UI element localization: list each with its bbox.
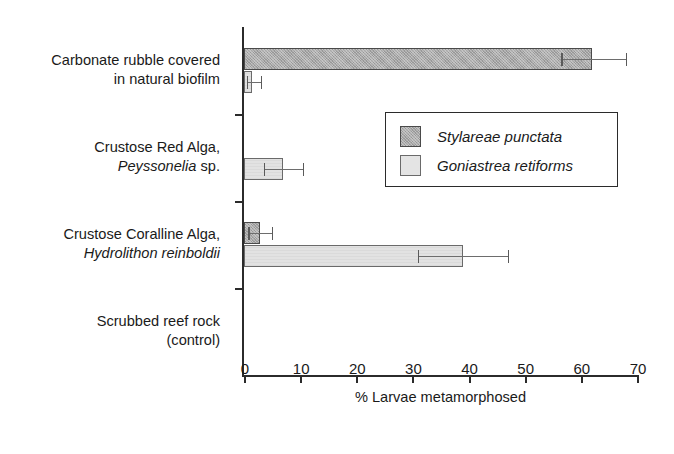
- error-bar-line-s0-c2: [248, 233, 272, 234]
- error-bar-cap-high-s0-c0: [626, 53, 627, 66]
- x-tick-label-10: 10: [281, 360, 321, 377]
- error-bar-line-s1-c0: [247, 82, 261, 83]
- y-tick-1: [235, 114, 243, 116]
- x-tick-label-70: 70: [618, 360, 658, 377]
- error-bar-cap-high-s1-c0: [261, 76, 262, 89]
- error-bar-cap-low-s1-c1: [264, 163, 265, 176]
- x-tick-label-40: 40: [450, 360, 490, 377]
- x-tick-label-30: 30: [393, 360, 433, 377]
- error-bar-cap-high-s1-c2: [508, 250, 509, 263]
- category-label-line: Crustose Red Alga,: [0, 138, 220, 157]
- category-label-line: Peyssonelia sp.: [0, 157, 220, 176]
- x-tick-label-60: 60: [562, 360, 602, 377]
- y-tick-2: [235, 201, 243, 203]
- category-label-line: (control): [0, 331, 220, 350]
- error-bar-line-s1-c2: [418, 256, 508, 257]
- plot-area: [244, 27, 637, 375]
- legend-swatch-light-icon: [400, 155, 421, 176]
- y-tick-3: [235, 288, 243, 290]
- category-label-line: Hydrolithon reinboldii: [0, 244, 220, 263]
- category-label-1: Crustose Red Alga,Peyssonelia sp.: [0, 138, 220, 176]
- category-label-line: Carbonate rubble covered: [0, 51, 220, 70]
- legend-swatch-dark-icon: [400, 126, 421, 147]
- error-bar-cap-low-s0-c0: [561, 53, 562, 66]
- x-tick-label-20: 20: [337, 360, 377, 377]
- category-label-2: Crustose Coralline Alga,Hydrolithon rein…: [0, 225, 220, 263]
- bar-s0-c0: [244, 48, 592, 70]
- category-axis-labels: Carbonate rubble coveredin natural biofi…: [0, 27, 232, 375]
- error-bar-cap-low-s0-c2: [248, 227, 249, 240]
- category-label-3: Scrubbed reef rock(control): [0, 312, 220, 350]
- error-bar-cap-high-s1-c1: [303, 163, 304, 176]
- error-bar-cap-low-s1-c2: [418, 250, 419, 263]
- category-label-0: Carbonate rubble coveredin natural biofi…: [0, 51, 220, 89]
- chart-legend: Stylareae punctata Goniastrea retiforms: [385, 112, 618, 187]
- x-axis-title: % Larvae metamorphosed: [244, 389, 637, 405]
- bar-chart: Carbonate rubble coveredin natural biofi…: [0, 0, 674, 454]
- error-bar-cap-high-s0-c2: [272, 227, 273, 240]
- x-tick-label-50: 50: [506, 360, 546, 377]
- category-label-line: Scrubbed reef rock: [0, 312, 220, 331]
- error-bar-cap-low-s1-c0: [247, 76, 248, 89]
- error-bar-line-s1-c1: [264, 169, 303, 170]
- legend-item-goniastrea-retiforms: Goniastrea retiforms: [400, 152, 573, 178]
- category-label-line: in natural biofilm: [0, 70, 220, 89]
- legend-item-stylareae-punctata: Stylareae punctata: [400, 123, 562, 149]
- error-bar-line-s0-c0: [561, 59, 626, 60]
- legend-label-1: Goniastrea retiforms: [437, 157, 573, 174]
- x-tick-label-0: 0: [225, 360, 265, 377]
- category-label-line: Crustose Coralline Alga,: [0, 225, 220, 244]
- legend-label-0: Stylareae punctata: [437, 128, 562, 145]
